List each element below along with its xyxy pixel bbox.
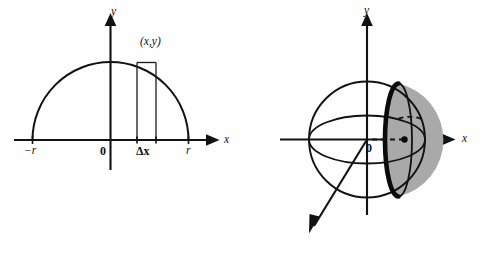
label-origin-left: 0 bbox=[100, 145, 106, 157]
disk-center-dot bbox=[401, 136, 407, 142]
figure-container: −r 0 r x y (x,y) Δx 0 x y bbox=[0, 0, 484, 253]
label-origin-right: 0 bbox=[366, 142, 372, 154]
label-point-xy: (x,y) bbox=[140, 36, 161, 48]
right-sphere-group bbox=[280, 13, 456, 234]
figure-graphics bbox=[0, 0, 484, 253]
label-delta-x: Δx bbox=[136, 145, 150, 157]
z-axis-arrowhead bbox=[309, 214, 320, 234]
label-r: r bbox=[186, 145, 190, 157]
label-x-axis-left: x bbox=[224, 134, 229, 146]
label-y-axis-right: y bbox=[364, 5, 369, 17]
left-x-axis-arrowhead bbox=[206, 134, 220, 146]
right-x-axis-arrowhead bbox=[442, 134, 456, 146]
label-x-axis-right: x bbox=[462, 133, 467, 145]
label-minus-r: −r bbox=[24, 145, 36, 157]
z-axis-line bbox=[314, 140, 367, 227]
label-y-axis-left: y bbox=[111, 6, 116, 18]
